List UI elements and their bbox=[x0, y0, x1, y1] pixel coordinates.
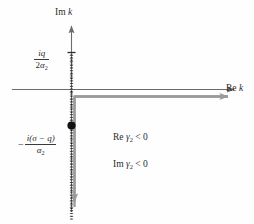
condition-im-gamma: Im γ2 < 0 bbox=[113, 160, 148, 170]
complex-plane-figure: Im k Re k iq 2α2 − i(σ − q) α2 Re γ2 < 0… bbox=[0, 0, 254, 224]
condition-re-gamma-relation: < 0 bbox=[135, 132, 147, 142]
pole-denominator: α2 bbox=[35, 145, 46, 157]
branch-point-denominator: 2α2 bbox=[34, 60, 49, 72]
pole-marker bbox=[67, 121, 75, 129]
pole-denominator-subscript: 2 bbox=[41, 150, 44, 156]
branch-point-numerator: iq bbox=[37, 48, 47, 59]
imaginary-axis-label: Im k bbox=[55, 8, 72, 18]
condition-re-gamma: Re γ2 < 0 bbox=[113, 133, 148, 143]
condition-im-gamma-prefix: Im bbox=[113, 159, 124, 169]
real-axis-label-prefix: Re bbox=[226, 83, 237, 93]
imaginary-axis-label-prefix: Im bbox=[55, 7, 66, 17]
branch-point-denominator-subscript: 2 bbox=[45, 65, 48, 71]
branch-point-label: iq 2α2 bbox=[34, 48, 49, 71]
pole-numerator: i(σ − q) bbox=[25, 133, 56, 144]
pole-fraction: i(σ − q) α2 bbox=[25, 133, 56, 156]
branch-point-numerator-q: q bbox=[41, 48, 46, 58]
integration-contour bbox=[75, 97, 229, 208]
condition-im-gamma-relation: < 0 bbox=[135, 159, 147, 169]
figure-canvas bbox=[0, 0, 254, 224]
pole-label-sign: − bbox=[18, 139, 25, 151]
condition-re-gamma-prefix: Re bbox=[113, 132, 124, 142]
real-axis-label-variable: k bbox=[239, 83, 243, 93]
real-axis-label: Re k bbox=[226, 84, 243, 94]
pole-label: − i(σ − q) α2 bbox=[18, 133, 56, 156]
branch-point-fraction: iq 2α2 bbox=[34, 48, 49, 71]
imaginary-axis-label-variable: k bbox=[68, 7, 72, 17]
